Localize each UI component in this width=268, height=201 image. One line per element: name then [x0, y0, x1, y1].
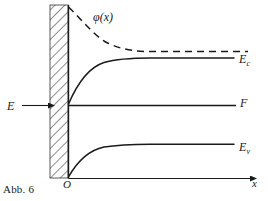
valence-band-label: Ev: [239, 140, 250, 155]
conduction-band-label-symbol: E: [239, 52, 246, 66]
hatched-wall-region: [50, 5, 68, 178]
field-arrow-label: E: [7, 99, 14, 114]
valence-band-label-subscript: v: [247, 147, 251, 156]
origin-label: O: [63, 178, 71, 190]
valence-band-curve: [69, 144, 235, 177]
band-diagram-canvas: [0, 0, 268, 201]
conduction-band-label: Ec: [239, 52, 250, 67]
x-axis-label: x: [252, 177, 257, 189]
valence-band-label-symbol: E: [239, 140, 246, 154]
conduction-band-label-subscript: c: [247, 59, 251, 68]
conduction-band-curve: [69, 58, 235, 104]
fermi-level-label: F: [240, 96, 247, 111]
band-diagram-figure: φ(x) Ec F Ev E O x Abb. 6: [0, 0, 268, 201]
potential-curve-label: φ(x): [93, 10, 113, 25]
figure-caption: Abb. 6: [3, 183, 34, 195]
